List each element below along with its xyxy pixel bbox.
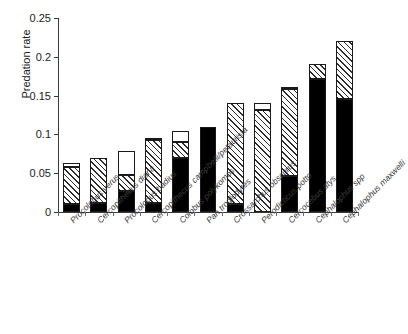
bar-segment-white <box>63 163 80 167</box>
bar-segment-white <box>254 103 271 110</box>
y-tick-mark <box>54 134 58 135</box>
y-tick-mark <box>54 18 58 19</box>
y-tick-label: 0.05 <box>30 167 51 179</box>
y-tick-label: 0.15 <box>30 90 51 102</box>
y-tick-label: 0.2 <box>36 51 51 63</box>
x-axis-labels: Procolobus verusCercopithecus dianaProco… <box>58 214 378 332</box>
bar-segment-hatched <box>309 64 326 79</box>
bar-segment-white <box>172 131 189 143</box>
y-tick-label: 0 <box>45 206 51 218</box>
y-tick-mark <box>54 57 58 58</box>
bar-segment-white <box>281 87 298 89</box>
y-tick-label: 0.25 <box>30 12 51 24</box>
bar-segment-hatched <box>172 142 189 158</box>
y-tick-label: 0.1 <box>36 128 51 140</box>
bar-segment-white <box>145 138 162 140</box>
bar-segment-hatched <box>336 41 353 100</box>
y-tick-mark <box>54 173 58 174</box>
bar-segment-hatched <box>63 167 80 204</box>
y-axis-line <box>58 18 59 212</box>
y-tick-mark <box>54 96 58 97</box>
bar <box>63 163 80 212</box>
bar-segment-white <box>118 151 135 175</box>
